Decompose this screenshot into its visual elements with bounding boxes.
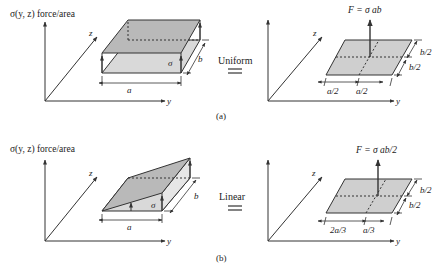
y-axis-label: y [395, 236, 400, 246]
dim-a-left-label: 2a/3 [330, 225, 347, 235]
panel-b: σ(y, z) force/area y z σ a b Linear [10, 144, 432, 263]
dim-a-right-label: a/2 [356, 86, 368, 96]
dim-a-label: a [127, 222, 132, 232]
z-axis-label: z [311, 168, 316, 178]
panel-a: σ(y, z) force/area y z σ a [10, 5, 432, 121]
dim-a-thirds [318, 217, 392, 225]
dim-a-halves [318, 78, 392, 86]
uniform-stress-block [102, 20, 200, 73]
sigma-axis-label: σ(y, z) force/area [10, 9, 76, 20]
caption-b: (b) [216, 253, 227, 263]
equals-icon [228, 69, 242, 73]
caption-a: (a) [216, 111, 226, 121]
stress-symbol: σ [151, 200, 156, 210]
y-axis-label: y [166, 236, 171, 246]
linear-stress-wedge [102, 158, 190, 211]
z-axis-label: z [312, 28, 317, 38]
equivalence-label-linear: Linear [219, 191, 246, 202]
equals-icon [228, 206, 242, 210]
resultant-force-label: F = σ ab [347, 5, 382, 15]
z-axis-label: z [88, 168, 93, 178]
y-axis-label: y [166, 96, 171, 106]
y-axis-label: y [395, 96, 400, 106]
stress-symbol: σ [168, 58, 173, 68]
dim-a [99, 76, 181, 86]
dim-b-top-label: b/2 [420, 185, 432, 195]
resultant-plate [326, 40, 412, 75]
resultant-plate [326, 179, 412, 213]
dim-a-left-label: a/2 [327, 86, 339, 96]
equivalent-force-diagram: σ(y, z) force/area y z σ a [0, 0, 447, 273]
dim-a-label: a [127, 85, 132, 95]
z-axis [45, 37, 97, 101]
resultant-force-label: F = σ ab/2 [355, 145, 397, 155]
dim-b-label: b [198, 54, 203, 64]
dim-b-bottom-label: b/2 [409, 62, 421, 72]
sigma-axis-label: σ(y, z) force/area [10, 144, 76, 155]
dim-b-label: b [194, 191, 199, 201]
dim-a-right-label: a/3 [363, 225, 375, 235]
z-axis-label: z [88, 28, 93, 38]
dim-b-bottom-label: b/2 [409, 200, 421, 210]
dim-b-top-label: b/2 [420, 47, 432, 57]
equivalence-label-uniform: Uniform [218, 55, 253, 66]
